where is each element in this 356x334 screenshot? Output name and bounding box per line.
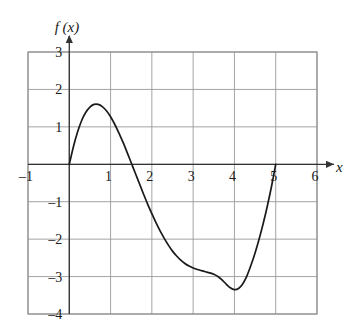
- y-tick-label: –4: [47, 307, 62, 322]
- function-graph-figure: –1123456 321–1–2–3–4 x f (x): [0, 0, 356, 334]
- y-tick-label: 2: [55, 82, 62, 97]
- y-tick-label: –3: [47, 270, 62, 285]
- y-tick-label: –2: [47, 232, 62, 247]
- x-tick-label: 4: [229, 169, 236, 184]
- x-tick-label: 3: [188, 169, 195, 184]
- x-tick-label: 2: [146, 169, 153, 184]
- x-tick-label: 6: [312, 169, 319, 184]
- y-tick-label: –1: [47, 195, 62, 210]
- y-tick-label: 1: [55, 120, 62, 135]
- x-tick-label: 1: [105, 169, 112, 184]
- y-tick-label: 3: [55, 45, 62, 60]
- y-axis-title: f (x): [55, 19, 80, 36]
- x-axis-title: x: [335, 159, 343, 175]
- x-tick-label: –1: [18, 169, 33, 184]
- plot-svg: –1123456 321–1–2–3–4 x f (x): [0, 0, 356, 334]
- x-tick-label: 5: [270, 169, 277, 184]
